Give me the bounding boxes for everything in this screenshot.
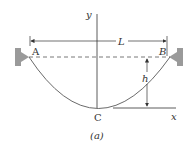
figure-caption: (a): [90, 130, 104, 141]
cable-diagram: y L A B h C x (a): [0, 0, 191, 154]
left-support: [15, 48, 29, 66]
x-axis-label: x: [171, 111, 177, 122]
span-dimension: [30, 36, 167, 56]
point-c-label: C: [94, 112, 102, 123]
sag-label: h: [142, 73, 148, 84]
y-axis-label: y: [85, 9, 92, 20]
right-support: [169, 48, 183, 66]
point-b-label: B: [158, 46, 166, 57]
point-a-label: A: [31, 46, 40, 57]
span-label: L: [117, 36, 125, 47]
cable-curve: [29, 57, 170, 109]
